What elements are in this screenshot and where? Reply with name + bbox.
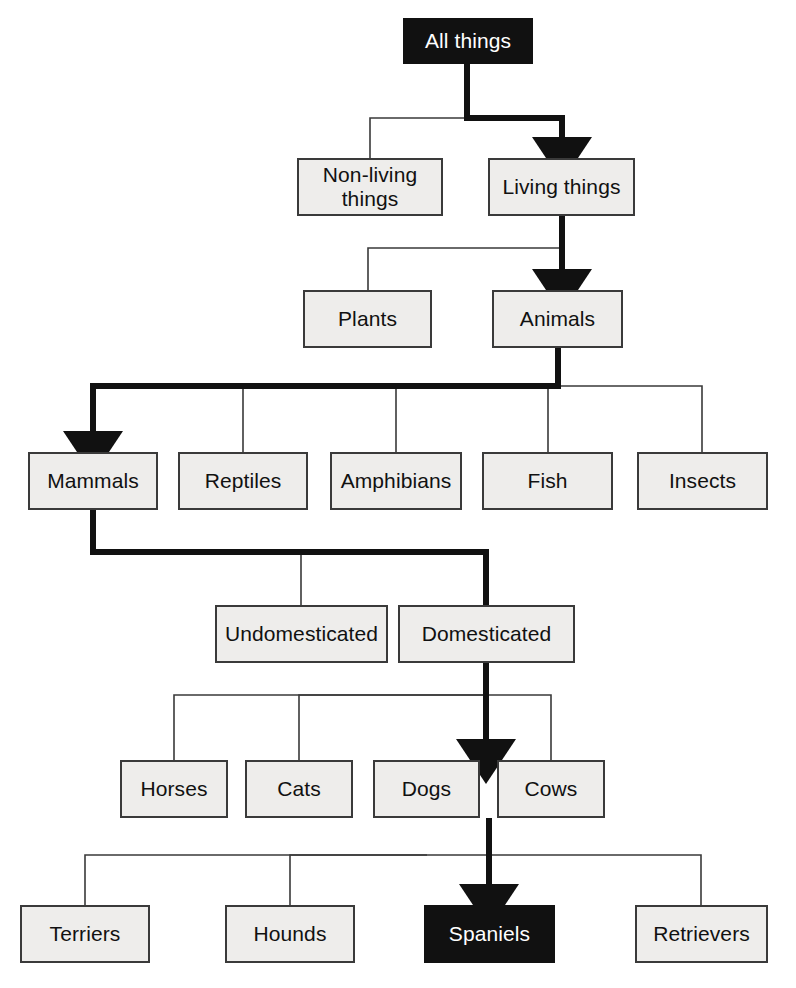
edge-mammals-to-domesticated <box>93 510 486 605</box>
edge-animals-to-insects <box>558 386 702 452</box>
node-insects[interactable]: Insects <box>637 452 768 510</box>
node-non-living-things[interactable]: Non-livingthings <box>297 158 443 216</box>
edge-dogs-to-hounds <box>290 855 427 905</box>
node-spaniels[interactable]: Spaniels <box>424 905 555 963</box>
node-label: Cats <box>277 777 321 801</box>
node-label: Hounds <box>254 922 327 946</box>
node-all-things[interactable]: All things <box>403 18 533 64</box>
node-fish[interactable]: Fish <box>482 452 613 510</box>
node-plants[interactable]: Plants <box>303 290 432 348</box>
node-label: Non-livingthings <box>323 163 417 210</box>
node-label: Insects <box>669 469 736 493</box>
edge-animals-to-fish <box>548 386 558 452</box>
node-label: Undomesticated <box>225 622 378 646</box>
edge-mammals-to-undomesticated <box>93 552 301 605</box>
node-label: All things <box>425 29 511 53</box>
node-undomesticated[interactable]: Undomesticated <box>215 605 388 663</box>
node-label: Mammals <box>47 469 139 493</box>
node-cows[interactable]: Cows <box>497 760 605 818</box>
node-label: Living things <box>502 175 620 199</box>
node-label: Amphibians <box>341 469 452 493</box>
node-horses[interactable]: Horses <box>120 760 228 818</box>
node-label: Reptiles <box>205 469 282 493</box>
edge-dogs-to-terriers <box>85 855 427 905</box>
edge-domesticated-to-cats <box>299 695 486 760</box>
edge-all-things-to-non-living-things <box>370 64 467 158</box>
taxonomy-diagram: All things Non-livingthings Living thing… <box>0 0 796 988</box>
node-label: Plants <box>338 307 397 331</box>
node-cats[interactable]: Cats <box>245 760 353 818</box>
node-animals[interactable]: Animals <box>492 290 623 348</box>
node-living-things[interactable]: Living things <box>488 158 635 216</box>
edge-dogs-to-retrievers <box>427 855 701 905</box>
edge-animals-to-reptiles <box>243 348 558 452</box>
edge-all-things-to-living-things <box>467 64 562 146</box>
node-label: Fish <box>527 469 567 493</box>
node-label: Domesticated <box>422 622 552 646</box>
node-label: Animals <box>520 307 595 331</box>
node-amphibians[interactable]: Amphibians <box>330 452 462 510</box>
node-terriers[interactable]: Terriers <box>20 905 150 963</box>
edge-domesticated-to-horses <box>174 695 486 760</box>
edge-animals-to-amphibians <box>396 386 558 452</box>
node-label: Terriers <box>50 922 121 946</box>
node-label: Horses <box>140 777 207 801</box>
node-retrievers[interactable]: Retrievers <box>635 905 768 963</box>
node-domesticated[interactable]: Domesticated <box>398 605 575 663</box>
node-label: Cows <box>525 777 578 801</box>
node-label: Dogs <box>402 777 451 801</box>
node-mammals[interactable]: Mammals <box>28 452 158 510</box>
node-label: Retrievers <box>653 922 750 946</box>
edge-animals-to-mammals <box>93 348 558 440</box>
edge-domesticated-to-cows <box>486 695 551 760</box>
node-hounds[interactable]: Hounds <box>225 905 355 963</box>
node-label: Spaniels <box>449 922 530 946</box>
node-dogs[interactable]: Dogs <box>373 760 480 818</box>
edge-living-things-to-plants <box>368 216 562 290</box>
node-reptiles[interactable]: Reptiles <box>178 452 308 510</box>
